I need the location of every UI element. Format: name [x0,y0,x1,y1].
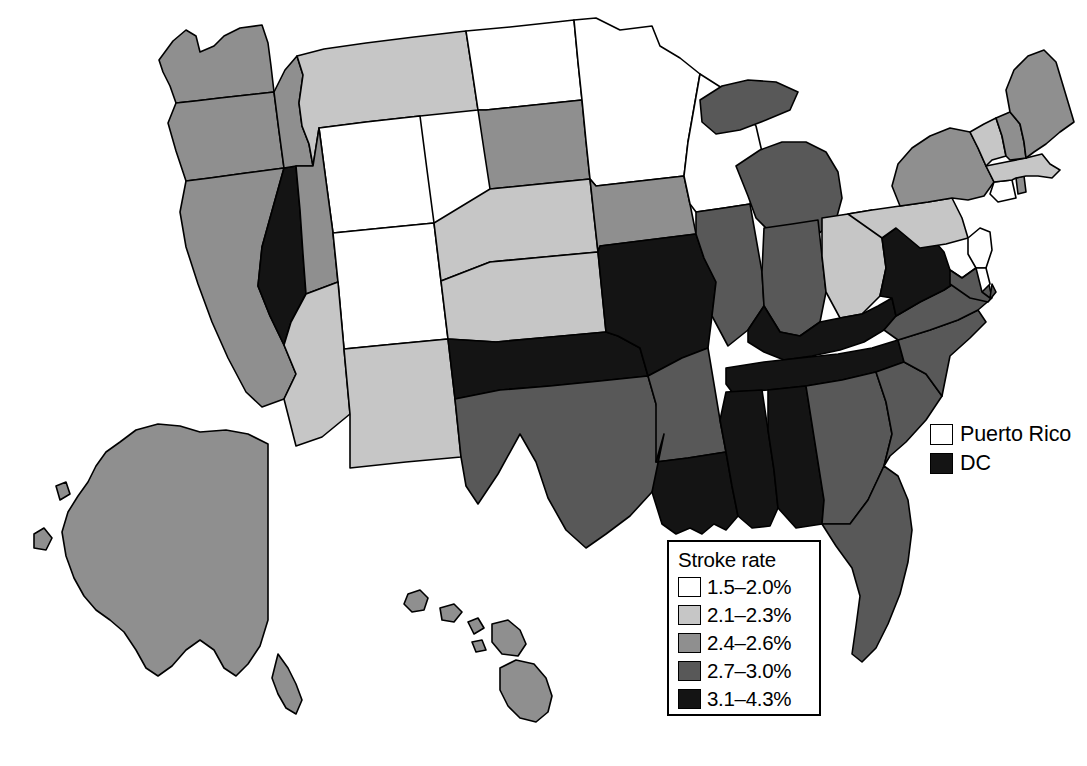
stroke-rate-choropleth-map: Puerto Rico DC Stroke rate 1.5–2.0% 2.1–… [0,0,1087,766]
dc-label: DC [960,451,991,476]
legend-label-2: 2.4–2.6% [707,631,791,655]
state-NM [344,339,461,468]
state-SD [478,100,590,189]
puerto-rico-label: Puerto Rico [960,422,1071,447]
state-RI [1016,176,1026,194]
legend-swatch-4 [678,689,701,709]
state-NJ [968,228,992,268]
state-CT [990,180,1016,202]
legend-swatch-0 [678,577,701,597]
state-MN [574,18,700,186]
legend-entry-0: 1.5–2.0% [678,573,819,601]
legend-label-3: 2.7–3.0% [707,659,791,683]
legend-swatch-1 [678,605,701,625]
us-map-svg [0,0,1087,766]
states-layer [34,18,1074,722]
state-AK [34,424,302,714]
dc-swatch [930,453,953,474]
legend-swatch-2 [678,633,701,653]
legend-entry-2: 2.4–2.6% [678,629,819,657]
state-TX [455,376,672,548]
puerto-rico-swatch [930,424,953,445]
legend-entry-3: 2.7–3.0% [678,657,819,685]
side-note-dc: DC [930,449,1085,478]
legend-label-0: 1.5–2.0% [707,575,791,599]
side-note-puerto-rico: Puerto Rico [930,420,1085,449]
legend-entry-1: 2.1–2.3% [678,601,819,629]
state-WA [159,25,274,103]
state-WY [319,116,434,233]
state-OR [168,92,284,181]
legend-entry-4: 3.1–4.3% [678,685,819,713]
state-HI [404,590,552,722]
legend-label-4: 3.1–4.3% [707,687,791,711]
map-legend: Stroke rate 1.5–2.0% 2.1–2.3% 2.4–2.6% 2… [667,540,821,716]
legend-title: Stroke rate [678,547,819,573]
map-side-notes: Puerto Rico DC [930,420,1085,478]
legend-swatch-3 [678,661,701,681]
state-CO [333,223,448,349]
legend-label-1: 2.1–2.3% [707,603,791,627]
state-ND [466,20,582,110]
